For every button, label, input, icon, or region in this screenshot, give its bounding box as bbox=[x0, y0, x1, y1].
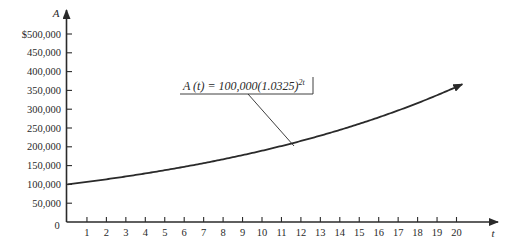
x-axis-title: t bbox=[491, 227, 495, 239]
equation-callout: A (t) = 100,000(1.0325)2t bbox=[180, 77, 313, 146]
y-tick-label: 350,000 bbox=[27, 85, 61, 96]
x-tick-label: 5 bbox=[162, 227, 167, 238]
equation-main: A (t) = 100,000(1.0325) bbox=[182, 79, 299, 93]
y-axis-ticks: 50,000100,000150,000200,000250,000300,00… bbox=[22, 29, 72, 209]
x-tick-label: 14 bbox=[335, 227, 346, 238]
x-tick-label: 2 bbox=[104, 227, 109, 238]
y-tick-label: 450,000 bbox=[27, 47, 61, 58]
x-tick-label: 6 bbox=[182, 227, 187, 238]
x-tick-label: 18 bbox=[412, 227, 423, 238]
y-axis-title: A bbox=[52, 7, 60, 19]
callout-leader-line bbox=[248, 94, 294, 146]
x-tick-label: 15 bbox=[354, 227, 365, 238]
x-tick-label: 11 bbox=[276, 227, 286, 238]
x-tick-label: 17 bbox=[393, 227, 404, 238]
equation-label: A (t) = 100,000(1.0325)2t bbox=[182, 78, 306, 93]
y-tick-label: $500,000 bbox=[22, 29, 61, 40]
y-tick-label: 50,000 bbox=[32, 198, 61, 209]
y-tick-label: 300,000 bbox=[27, 104, 61, 115]
y-tick-label: 150,000 bbox=[27, 160, 61, 171]
exponential-growth-chart: 50,000100,000150,000200,000250,000300,00… bbox=[0, 0, 520, 249]
x-tick-label: 10 bbox=[257, 227, 268, 238]
equation-exponent: 2t bbox=[299, 78, 306, 87]
x-tick-label: 12 bbox=[296, 227, 307, 238]
x-tick-label: 4 bbox=[143, 227, 149, 238]
x-tick-label: 9 bbox=[240, 227, 245, 238]
x-tick-label: 8 bbox=[220, 227, 225, 238]
y-tick-label: 200,000 bbox=[27, 141, 61, 152]
y-tick-label: 250,000 bbox=[27, 123, 61, 134]
origin-label: 0 bbox=[54, 220, 59, 231]
x-tick-label: 13 bbox=[315, 227, 326, 238]
y-tick-label: 100,000 bbox=[27, 179, 61, 190]
x-tick-label: 16 bbox=[373, 227, 384, 238]
x-tick-label: 3 bbox=[123, 227, 128, 238]
x-axis-ticks: 1234567891011121314151617181920 bbox=[84, 217, 461, 238]
x-tick-label: 7 bbox=[201, 227, 206, 238]
growth-curve bbox=[68, 84, 463, 184]
x-tick-label: 20 bbox=[451, 227, 462, 238]
x-tick-label: 19 bbox=[432, 227, 443, 238]
y-tick-label: 400,000 bbox=[27, 66, 61, 77]
x-tick-label: 1 bbox=[84, 227, 89, 238]
